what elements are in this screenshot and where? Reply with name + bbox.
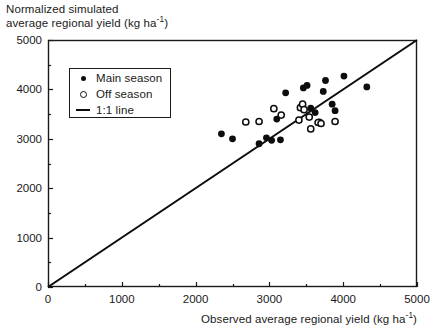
data-point-main-season: [268, 137, 275, 144]
legend-label-one-to-one-line: 1:1 line: [96, 104, 134, 116]
y-axis-tick-label: 5000: [0, 34, 42, 46]
legend-item-one-to-one-line: 1:1 line: [70, 102, 170, 118]
data-point-main-season: [320, 88, 327, 95]
data-point-main-season: [332, 107, 339, 114]
y-axis-tick-label: 0: [0, 281, 42, 293]
line-segment-icon: [70, 109, 96, 111]
data-point-off-season: [296, 117, 302, 123]
filled-circle-icon: [70, 76, 96, 81]
legend-label-off-season: Off season: [96, 88, 152, 100]
x-axis-tick-label: 2000: [183, 293, 209, 305]
data-point-main-season: [322, 77, 329, 84]
data-point-off-season: [256, 118, 262, 124]
y-axis-tick-label: 1000: [0, 232, 42, 244]
legend-item-main-season: Main season: [70, 70, 170, 86]
data-point-main-season: [304, 82, 311, 89]
legend-item-off-season: Off season: [70, 86, 170, 102]
open-circle-icon: [70, 91, 96, 98]
y-axis-tick-label: 4000: [0, 83, 42, 95]
data-point-off-season: [332, 118, 338, 124]
x-axis-tick-label: 4000: [330, 293, 356, 305]
x-axis-tick-label: 3000: [257, 293, 283, 305]
x-axis-tick-label: 0: [45, 293, 51, 305]
x-axis-tick-label: 1000: [109, 293, 135, 305]
data-point-off-season: [243, 119, 249, 125]
data-point-main-season: [282, 89, 289, 96]
data-point-main-season: [363, 84, 370, 91]
data-point-main-season: [277, 136, 284, 143]
y-axis-tick-label: 2000: [0, 182, 42, 194]
scatter-plot-figure: Normalized simulated average regional yi…: [0, 0, 441, 334]
legend-label-main-season: Main season: [96, 72, 162, 84]
x-axis-tick-label: 5000: [404, 293, 430, 305]
data-point-off-season: [318, 120, 324, 126]
data-point-main-season: [229, 135, 236, 142]
data-point-off-season: [306, 114, 312, 120]
data-point-off-season: [301, 107, 307, 113]
data-point-main-season: [341, 73, 348, 80]
plot-canvas: [0, 0, 441, 334]
data-point-off-season: [308, 126, 314, 132]
data-point-main-season: [312, 109, 319, 116]
data-point-main-season: [256, 140, 263, 147]
y-axis-tick-label: 3000: [0, 133, 42, 145]
data-point-off-season: [271, 106, 277, 112]
data-point-main-season: [329, 101, 336, 108]
data-point-main-season: [218, 130, 225, 137]
legend: Main season Off season 1:1 line: [69, 68, 171, 118]
data-point-off-season: [278, 112, 284, 118]
